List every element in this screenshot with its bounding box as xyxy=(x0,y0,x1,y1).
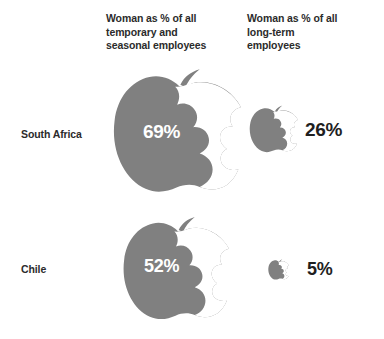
column-header-temporary: Woman as % of all temporary and seasonal… xyxy=(106,12,238,53)
value-label-chile-long-term: 5% xyxy=(307,259,332,280)
row-label-south-africa: South Africa xyxy=(21,128,82,140)
infographic-root: Woman as % of all temporary and seasonal… xyxy=(0,0,384,339)
value-label-south-africa-temporary: 69% xyxy=(143,121,180,143)
bitten-apple-icon-chile-long-term xyxy=(268,259,289,280)
bitten-apple-icon-south-africa-long-term xyxy=(249,105,298,153)
column-header-long-term: Woman as % of all long-term employees xyxy=(247,12,371,53)
value-label-chile-temporary: 52% xyxy=(144,256,179,277)
row-label-chile: Chile xyxy=(21,263,46,275)
value-label-south-africa-long-term: 26% xyxy=(305,119,342,141)
